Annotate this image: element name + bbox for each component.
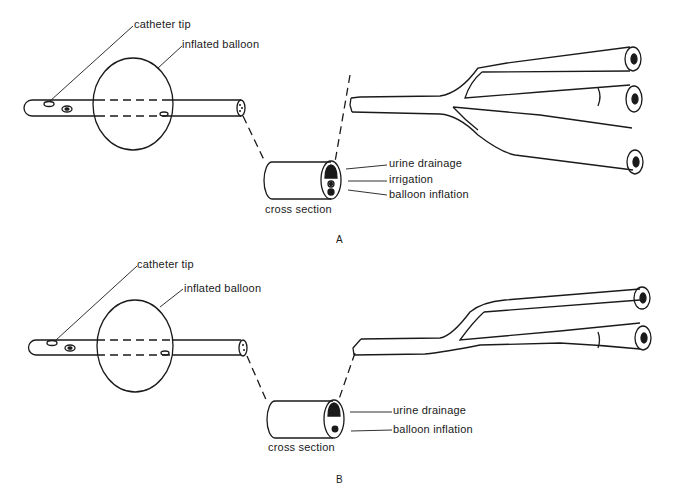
catheter-shaft-a xyxy=(24,100,245,116)
inflated-balloon-b xyxy=(97,300,173,392)
cross-section-a xyxy=(264,161,387,199)
drainage-tube-a xyxy=(350,47,643,174)
cross-section-b xyxy=(267,400,392,438)
panel-label-b: B xyxy=(336,474,343,485)
catheter-tip-label-b: catheter tip xyxy=(137,258,194,270)
irrigation-label-a: irrigation xyxy=(389,173,433,185)
panel-label-a: A xyxy=(336,234,343,245)
inflated-balloon-a xyxy=(93,58,173,150)
cross-section-label-a: cross section xyxy=(265,203,332,215)
urine-drainage-label-b: urine drainage xyxy=(393,404,466,416)
balloon-port-a xyxy=(160,112,168,116)
balloon-inflation-label-a: balloon inflation xyxy=(389,188,469,200)
inflated-balloon-label-b: inflated balloon xyxy=(184,282,261,294)
panel-a-drawing xyxy=(24,26,643,199)
panel-b-drawing xyxy=(29,266,652,438)
catheter-diagram xyxy=(0,0,676,501)
tip-hole-1-a xyxy=(44,102,54,107)
catheter-tip-label-a: catheter tip xyxy=(134,18,191,30)
urine-drainage-label-a: urine drainage xyxy=(389,157,462,169)
drainage-tube-b xyxy=(353,287,651,355)
inflated-balloon-label-a: inflated balloon xyxy=(182,38,259,50)
catheter-shaft-b xyxy=(29,340,248,356)
balloon-inflation-label-b: balloon inflation xyxy=(393,423,473,435)
cross-section-label-b: cross section xyxy=(268,441,335,453)
